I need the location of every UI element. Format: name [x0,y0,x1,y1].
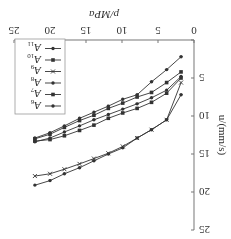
y-tick-label: 15 [199,148,211,160]
rotated-chart: 0510152025510152025p/MPau/(mm/s)A6A7A8A9… [0,0,231,239]
y-tick-label: 25 [199,224,211,236]
x-tick-label: 10 [116,25,128,37]
x-tick-label: 25 [8,25,20,37]
x-tick-label: 20 [44,25,56,37]
x-tick-label: 15 [80,25,92,37]
y-tick-label: 10 [199,110,211,122]
line-chart: 0510152025510152025p/MPau/(mm/s)A6A7A8A9… [0,0,231,239]
y-tick-label: 5 [199,72,205,84]
x-axis-label: p/MPa [89,9,120,21]
y-tick-label: 20 [199,186,211,198]
y-axis-label: u/(mm/s) [216,115,229,156]
x-tick-label: 0 [191,25,197,37]
x-tick-label: 5 [155,25,161,37]
legend: A6A7A8A9A10A11 [15,39,65,114]
